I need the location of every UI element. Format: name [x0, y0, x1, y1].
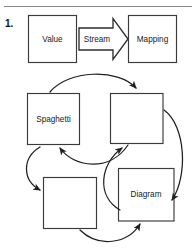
figure-container: 1. Value Stream Mapping Spaghetti Diagra… — [0, 0, 196, 252]
value-box-label: Value — [42, 35, 63, 44]
edge-spaghetti-to-topright — [50, 74, 136, 92]
mapping-box-label: Mapping — [137, 35, 169, 44]
bottom-left-box — [44, 178, 97, 229]
item-number: 1. — [5, 18, 14, 29]
edge-topright-to-spaghetti — [60, 145, 128, 164]
top-right-box — [111, 94, 164, 144]
diagram-box-label: Diagram — [131, 190, 162, 199]
stream-arrow-label: Stream — [84, 35, 111, 44]
edge-spaghetti-to-bottomleft — [27, 147, 41, 190]
spaghetti-box-label: Spaghetti — [36, 115, 71, 124]
